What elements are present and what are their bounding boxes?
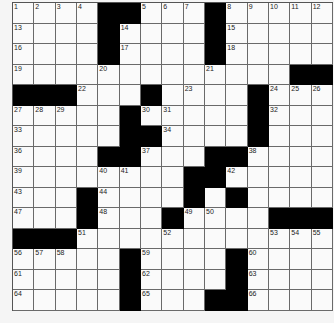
grid-cell[interactable]: 48	[98, 208, 119, 229]
grid-cell[interactable]: 66	[248, 290, 269, 311]
grid-cell[interactable]	[120, 229, 141, 250]
grid-cell[interactable]: 12	[312, 3, 333, 24]
grid-cell[interactable]	[184, 290, 205, 311]
grid-cell[interactable]	[56, 24, 77, 45]
grid-cell[interactable]: 64	[13, 290, 34, 311]
grid-cell[interactable]	[77, 24, 98, 45]
grid-cell[interactable]: 55	[312, 229, 333, 250]
grid-cell[interactable]: 10	[269, 3, 290, 24]
grid-cell[interactable]	[34, 188, 55, 209]
grid-cell[interactable]	[184, 106, 205, 127]
grid-cell[interactable]	[34, 65, 55, 86]
grid-cell[interactable]	[312, 270, 333, 291]
grid-cell[interactable]	[162, 270, 183, 291]
grid-cell[interactable]: 61	[13, 270, 34, 291]
grid-cell[interactable]	[248, 65, 269, 86]
grid-cell[interactable]: 14	[120, 24, 141, 45]
grid-cell[interactable]	[162, 147, 183, 168]
grid-cell[interactable]: 11	[290, 3, 311, 24]
grid-cell[interactable]: 22	[77, 85, 98, 106]
grid-cell[interactable]	[162, 167, 183, 188]
grid-cell[interactable]: 23	[184, 85, 205, 106]
grid-cell[interactable]	[312, 24, 333, 45]
grid-cell[interactable]	[290, 167, 311, 188]
grid-cell[interactable]	[205, 229, 226, 250]
grid-cell[interactable]	[248, 44, 269, 65]
grid-cell[interactable]	[56, 65, 77, 86]
grid-cell[interactable]	[162, 290, 183, 311]
grid-cell[interactable]	[248, 208, 269, 229]
grid-cell[interactable]	[56, 44, 77, 65]
grid-cell[interactable]	[141, 229, 162, 250]
grid-cell[interactable]: 60	[248, 249, 269, 270]
grid-cell[interactable]	[184, 147, 205, 168]
grid-cell[interactable]: 57	[34, 249, 55, 270]
grid-cell[interactable]	[77, 44, 98, 65]
grid-cell[interactable]	[34, 270, 55, 291]
grid-cell[interactable]	[141, 167, 162, 188]
grid-cell[interactable]	[226, 208, 247, 229]
grid-cell[interactable]	[269, 65, 290, 86]
grid-cell[interactable]: 47	[13, 208, 34, 229]
grid-cell[interactable]: 62	[141, 270, 162, 291]
grid-cell[interactable]: 65	[141, 290, 162, 311]
grid-cell[interactable]	[77, 270, 98, 291]
grid-cell[interactable]	[269, 188, 290, 209]
grid-cell[interactable]	[141, 65, 162, 86]
grid-cell[interactable]	[205, 126, 226, 147]
grid-cell[interactable]	[98, 270, 119, 291]
grid-cell[interactable]	[34, 167, 55, 188]
grid-cell[interactable]	[77, 249, 98, 270]
grid-cell[interactable]: 32	[269, 106, 290, 127]
grid-cell[interactable]	[184, 24, 205, 45]
grid-cell[interactable]: 26	[312, 85, 333, 106]
grid-cell[interactable]: 30	[141, 106, 162, 127]
grid-cell[interactable]: 42	[226, 167, 247, 188]
grid-cell[interactable]	[290, 126, 311, 147]
grid-cell[interactable]	[77, 167, 98, 188]
grid-cell[interactable]: 59	[141, 249, 162, 270]
grid-cell[interactable]: 21	[205, 65, 226, 86]
grid-cell[interactable]	[184, 270, 205, 291]
grid-cell[interactable]	[77, 147, 98, 168]
grid-cell[interactable]	[34, 290, 55, 311]
grid-cell[interactable]	[162, 24, 183, 45]
grid-cell[interactable]: 63	[248, 270, 269, 291]
grid-cell[interactable]	[269, 290, 290, 311]
grid-cell[interactable]	[98, 290, 119, 311]
grid-cell[interactable]: 24	[269, 85, 290, 106]
grid-cell[interactable]	[184, 44, 205, 65]
grid-cell[interactable]	[141, 208, 162, 229]
grid-cell[interactable]: 41	[120, 167, 141, 188]
grid-cell[interactable]	[269, 249, 290, 270]
grid-cell[interactable]: 40	[98, 167, 119, 188]
grid-cell[interactable]	[98, 229, 119, 250]
grid-cell[interactable]: 7	[184, 3, 205, 24]
grid-cell[interactable]	[205, 85, 226, 106]
grid-cell[interactable]	[56, 208, 77, 229]
grid-cell[interactable]: 34	[162, 126, 183, 147]
grid-cell[interactable]	[290, 24, 311, 45]
grid-cell[interactable]	[312, 147, 333, 168]
grid-cell[interactable]	[184, 229, 205, 250]
grid-cell[interactable]	[269, 270, 290, 291]
grid-cell[interactable]: 6	[162, 3, 183, 24]
grid-cell[interactable]: 51	[77, 229, 98, 250]
grid-cell[interactable]	[34, 24, 55, 45]
grid-cell[interactable]	[34, 126, 55, 147]
grid-cell[interactable]	[226, 106, 247, 127]
grid-cell[interactable]: 5	[141, 3, 162, 24]
grid-cell[interactable]	[290, 188, 311, 209]
grid-cell[interactable]	[312, 167, 333, 188]
grid-cell[interactable]	[34, 208, 55, 229]
grid-cell[interactable]	[205, 106, 226, 127]
grid-cell[interactable]	[312, 126, 333, 147]
grid-cell[interactable]	[98, 106, 119, 127]
grid-cell[interactable]	[248, 188, 269, 209]
grid-cell[interactable]	[56, 270, 77, 291]
grid-cell[interactable]: 38	[248, 147, 269, 168]
grid-cell[interactable]: 15	[226, 24, 247, 45]
grid-cell[interactable]	[205, 249, 226, 270]
grid-cell[interactable]: 44	[98, 188, 119, 209]
grid-cell[interactable]	[312, 44, 333, 65]
